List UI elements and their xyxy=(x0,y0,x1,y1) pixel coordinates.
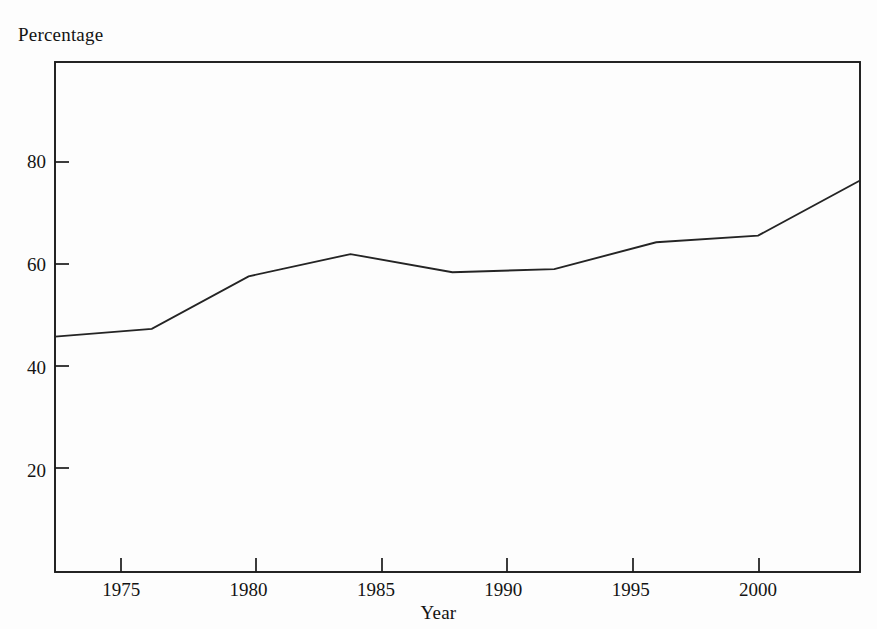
x-axis-tickmarks xyxy=(121,558,759,572)
data-series-line xyxy=(55,180,860,336)
x-tick-label-1975: 1975 xyxy=(81,580,161,600)
line-chart-figure: Percentage 20406080 19751980198519901995… xyxy=(0,0,877,629)
plot-frame xyxy=(55,62,860,572)
x-tick-label-1990: 1990 xyxy=(463,580,543,600)
x-tick-label-1985: 1985 xyxy=(336,580,416,600)
x-tick-label-2000: 2000 xyxy=(718,580,798,600)
y-tick-label-40: 40 xyxy=(0,358,46,378)
y-tick-label-20: 20 xyxy=(0,461,46,481)
x-axis-title: Year xyxy=(0,602,877,624)
x-tick-label-1995: 1995 xyxy=(591,580,671,600)
plot-area xyxy=(0,0,877,629)
y-tick-label-60: 60 xyxy=(0,255,46,275)
y-tick-label-80: 80 xyxy=(0,152,46,172)
x-tick-label-1980: 1980 xyxy=(209,580,289,600)
y-axis-tickmarks xyxy=(55,162,69,468)
